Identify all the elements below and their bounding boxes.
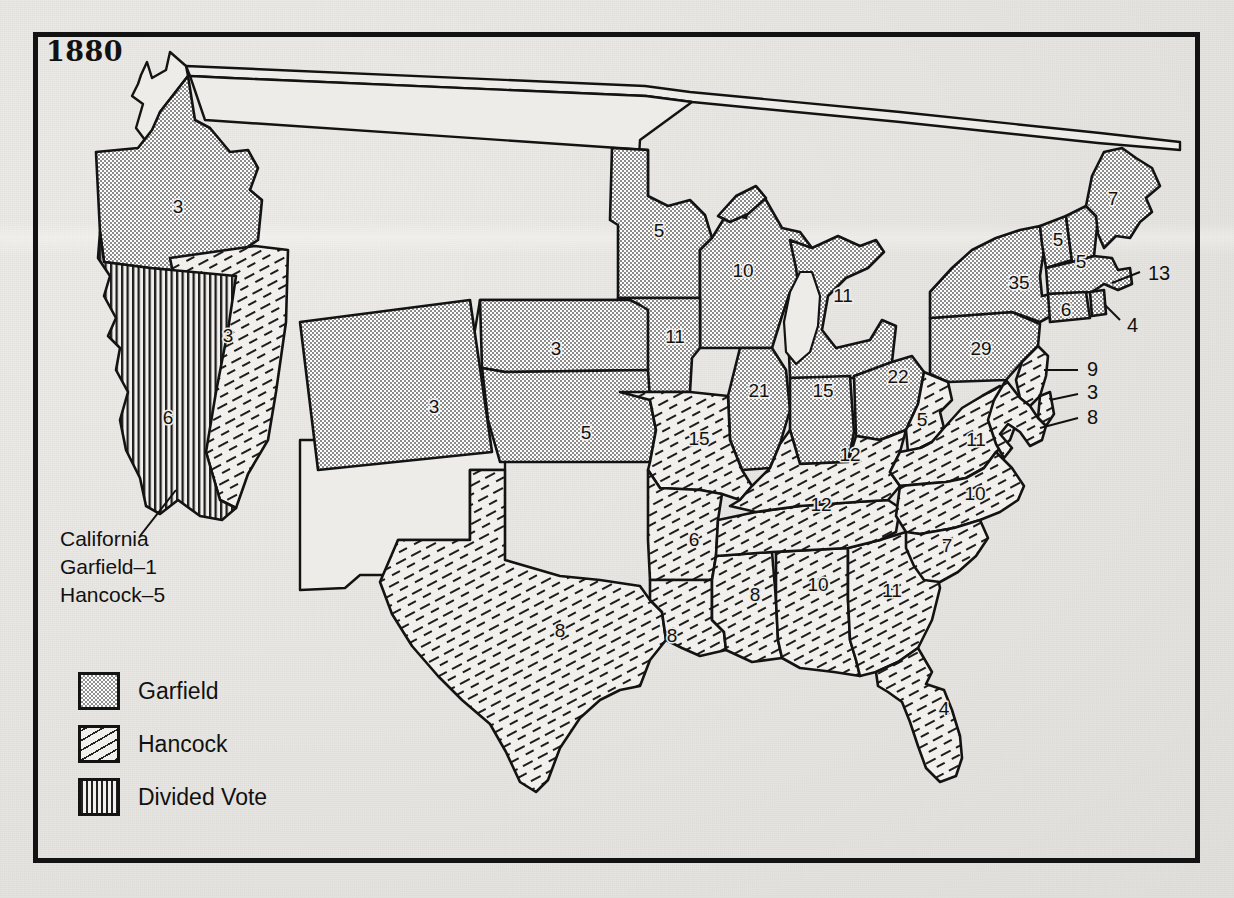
vote-label-tennessee: 12 (810, 494, 831, 515)
legend-item-divided: Divided Vote (78, 778, 267, 816)
state-rhodeisland (1090, 290, 1106, 316)
vote-label-oregon: 3 (173, 196, 184, 217)
vote-label-colorado: 3 (429, 396, 440, 417)
legend-label-divided: Divided Vote (138, 784, 267, 811)
vote-label-nevada: 3 (223, 325, 234, 346)
vote-label-mississippi: 8 (750, 584, 761, 605)
vote-label-connecticut: 6 (1061, 299, 1072, 320)
state-kansas (482, 368, 656, 462)
legend-swatch-hancock (78, 725, 120, 763)
legend-swatch-divided (78, 778, 120, 816)
legend-label-hancock: Hancock (138, 731, 227, 758)
legend-swatch-garfield (78, 672, 120, 710)
legend-item-hancock: Hancock (78, 725, 267, 763)
vote-label-maine: 7 (1108, 188, 1119, 209)
vote-label-massachusetts: 13 (1148, 262, 1170, 284)
vote-label-michigan: 11 (833, 285, 853, 306)
vote-label-kentucky: 12 (839, 444, 860, 465)
state-nebraska (480, 300, 648, 372)
legend-label-garfield: Garfield (138, 678, 219, 705)
vote-label-pennsylvania: 29 (970, 338, 991, 359)
vote-label-vermont: 5 (1053, 229, 1064, 250)
vote-label-florida: 4 (939, 698, 950, 719)
state-colorado (300, 300, 492, 470)
vote-label-iowa: 11 (665, 326, 685, 347)
vote-label-delaware: 3 (1087, 381, 1098, 403)
vote-label-new-jersey: 9 (1087, 358, 1098, 380)
map-legend: Garfield Hancock Divided Vote (78, 672, 267, 831)
vote-label-maryland: 8 (1087, 406, 1098, 428)
vote-label-north-carolina: 10 (964, 483, 985, 504)
vote-label-rhode-island: 4 (1127, 314, 1138, 336)
vote-label-louisiana: 8 (667, 625, 678, 646)
vote-label-missouri: 15 (688, 428, 709, 449)
vote-label-new-hampshire: 5 (1076, 251, 1087, 272)
vote-label-california: 6 (163, 407, 174, 428)
vote-label-texas: 8 (555, 620, 566, 641)
vote-label-indiana: 15 (812, 380, 833, 401)
vote-label-south-carolina: 7 (942, 535, 953, 556)
leader-delaware (1050, 394, 1078, 400)
vote-label-new-york: 35 (1008, 272, 1029, 293)
vote-label-alabama: 10 (807, 574, 828, 595)
vote-label-illinois: 21 (748, 380, 769, 401)
state-maine (1086, 148, 1160, 248)
vote-label-minnesota: 5 (654, 220, 665, 241)
vote-label-kansas: 5 (581, 422, 592, 443)
vote-label-nebraska: 3 (551, 338, 562, 359)
legend-item-garfield: Garfield (78, 672, 267, 710)
vote-label-georgia: 11 (882, 580, 902, 601)
vote-label-ohio: 22 (887, 366, 908, 387)
california-annotation: California Garfield–1 Hancock–5 (60, 525, 165, 609)
vote-label-virginia: 11 (966, 429, 986, 450)
vote-label-wisconsin: 10 (732, 260, 753, 281)
vote-label-arkansas: 6 (689, 529, 700, 550)
vote-label-west-virginia: 5 (917, 409, 928, 430)
